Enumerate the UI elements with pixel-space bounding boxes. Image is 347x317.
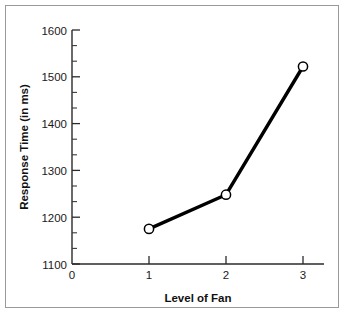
data-point-marker bbox=[221, 190, 230, 199]
y-tick-label-1200: 1200 bbox=[41, 212, 67, 224]
y-tick-label-1300: 1300 bbox=[41, 165, 67, 177]
x-tick-label-2: 2 bbox=[223, 269, 229, 281]
figure-border: 1600 1500 1400 1300 1200 1100 0 1 2 3 Re… bbox=[5, 5, 339, 308]
x-tick-label-0: 0 bbox=[69, 269, 75, 281]
line-chart: 1600 1500 1400 1300 1200 1100 0 1 2 3 Re… bbox=[6, 6, 338, 307]
data-point-marker bbox=[144, 224, 153, 233]
x-tick-label-1: 1 bbox=[146, 269, 152, 281]
data-series-line bbox=[149, 67, 303, 229]
y-tick-label-1500: 1500 bbox=[41, 71, 67, 83]
x-axis-title: Level of Fan bbox=[164, 292, 231, 304]
y-tick-label-1400: 1400 bbox=[41, 118, 67, 130]
x-axis-major-ticks bbox=[149, 256, 303, 264]
data-point-marker bbox=[298, 62, 307, 71]
y-axis-major-ticks bbox=[72, 30, 80, 264]
y-axis-title: Response Time (in ms) bbox=[18, 84, 30, 210]
y-tick-label-1100: 1100 bbox=[42, 259, 67, 271]
x-tick-label-3: 3 bbox=[300, 269, 306, 281]
y-axis-minor-ticks bbox=[72, 46, 77, 249]
y-tick-label-1600: 1600 bbox=[41, 25, 67, 37]
